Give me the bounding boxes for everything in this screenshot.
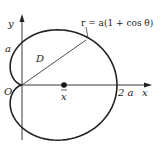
centroid-label: x: [61, 91, 67, 102]
x-axis-label: x: [142, 87, 148, 98]
y-tick-label-a: a: [5, 43, 11, 54]
x-tick-label-2a: 2 a: [117, 87, 134, 98]
region-label: D: [35, 53, 44, 64]
curve-equation-label: r = a(1 + cos θ): [81, 18, 153, 28]
origin-label: O: [4, 86, 12, 97]
y-axis-label: y: [7, 18, 14, 29]
y-axis-arrowhead-icon: [20, 14, 25, 22]
radius-line: [22, 40, 86, 85]
cardioid-diagram: y a O D x 2 a x r = a(1 + cos θ): [0, 0, 161, 157]
centroid-dot: [61, 82, 67, 88]
